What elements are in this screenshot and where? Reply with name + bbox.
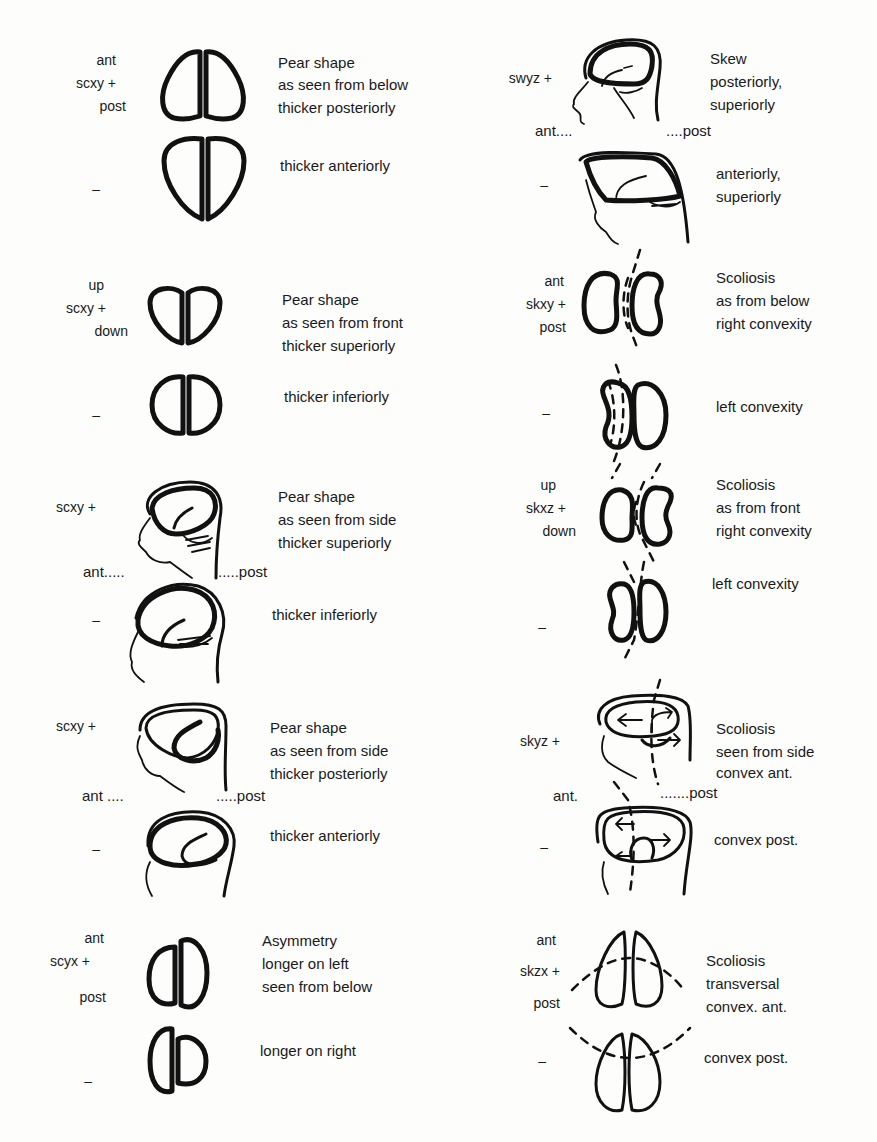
- description-line: thicker inferiorly: [272, 604, 377, 626]
- description-line: seen from below: [262, 976, 372, 998]
- description-line: left convexity: [712, 573, 799, 595]
- description-line: as seen from side: [278, 509, 396, 531]
- label-skxz-plus: skxz +: [486, 497, 566, 519]
- label-up: up: [60, 274, 104, 296]
- description-line: right convexity: [716, 313, 812, 335]
- label-ant: ant: [520, 929, 556, 951]
- description-line: right convexity: [716, 520, 812, 542]
- head-skew-anterior-superior-illustration: [576, 150, 696, 245]
- axis-label-post: ....post: [666, 120, 711, 142]
- description-line: longer on right: [260, 1040, 356, 1062]
- scoliosis-transversal-convex-anterior-illustration: [570, 928, 690, 1013]
- label-swyz-plus: swyz +: [476, 67, 552, 89]
- label-up: up: [520, 474, 556, 496]
- head-side-thick-anterior-illustration: [140, 806, 240, 901]
- label-scxy-plus: scxy +: [20, 715, 96, 737]
- pear-below-thick-anterior-illustration: [160, 135, 250, 225]
- label-minus: –: [526, 616, 546, 638]
- axis-label-ant: ant.....: [83, 561, 125, 583]
- description-line: Pear shape: [278, 52, 355, 74]
- label-minus: –: [526, 1050, 546, 1072]
- scoliosis-front-left-convexity-illustration: [604, 560, 684, 670]
- head-side-thick-posterior-illustration: [134, 700, 234, 795]
- description-line: as from front: [716, 497, 800, 519]
- description-line: posteriorly,: [710, 71, 782, 93]
- description-line: thicker anteriorly: [270, 825, 380, 847]
- head-skew-posterior-superior-illustration: [550, 38, 680, 128]
- description-line: left convexity: [716, 396, 803, 418]
- asymmetry-longer-right-illustration: [146, 1025, 216, 1097]
- label-skyz-plus: skyz +: [490, 730, 560, 752]
- cranial-distortion-diagram: ant scxy + post Pear shape as seen from …: [0, 0, 877, 1142]
- scoliosis-side-convex-posterior-illustration: [594, 782, 704, 902]
- label-down: down: [510, 520, 576, 542]
- scoliosis-front-right-convexity-illustration: [600, 462, 690, 572]
- scoliosis-below-right-convexity-illustration: [580, 250, 690, 365]
- pear-front-thick-superior-illustration: [146, 285, 224, 350]
- label-post: post: [520, 992, 560, 1014]
- axis-label-ant: ant ....: [82, 785, 124, 807]
- description-line: Pear shape: [270, 717, 347, 739]
- description-line: longer on left: [262, 953, 349, 975]
- description-line: Scoliosis: [716, 718, 775, 740]
- description-line: thicker posteriorly: [278, 97, 396, 119]
- pear-front-thick-inferior-illustration: [148, 373, 224, 438]
- description-line: thicker posteriorly: [270, 763, 388, 785]
- scoliosis-below-left-convexity-illustration: [596, 365, 686, 465]
- axis-label-ant: ant.: [553, 785, 578, 807]
- label-minus: –: [80, 609, 100, 631]
- description-line: Scoliosis: [706, 950, 765, 972]
- description-line: convex. ant.: [706, 996, 787, 1018]
- label-skzx-plus: skzx +: [480, 960, 560, 982]
- label-scxy-plus: scxy +: [40, 72, 116, 94]
- label-minus: –: [528, 836, 548, 858]
- axis-label-ant: ant....: [535, 120, 573, 142]
- description-line: Skew: [710, 48, 747, 70]
- label-down: down: [50, 320, 128, 342]
- description-line: convex post.: [714, 829, 798, 851]
- description-line: as seen from front: [282, 312, 403, 334]
- label-ant: ant: [60, 927, 104, 949]
- description-line: seen from side: [716, 741, 814, 763]
- description-line: as seen from below: [278, 74, 408, 96]
- description-line: thicker superiorly: [278, 532, 391, 554]
- description-line: superiorly: [710, 94, 775, 116]
- description-line: Scoliosis: [716, 474, 775, 496]
- description-line: as seen from side: [270, 740, 388, 762]
- label-scxy-plus: scxy +: [30, 297, 106, 319]
- label-minus: –: [80, 838, 100, 860]
- label-ant: ant: [520, 270, 564, 292]
- head-side-thick-inferior-illustration: [122, 578, 232, 686]
- label-post: post: [50, 986, 106, 1008]
- description-line: Pear shape: [282, 289, 359, 311]
- description-line: thicker anteriorly: [280, 155, 390, 177]
- label-post: post: [60, 95, 126, 117]
- axis-label-post: .....post: [216, 785, 265, 807]
- label-scxy-plus: scxy +: [20, 496, 96, 518]
- description-line: convex ant.: [716, 762, 793, 784]
- description-line: anteriorly,: [716, 163, 781, 185]
- label-minus: –: [72, 1070, 92, 1092]
- label-scyx-plus: scyx +: [20, 950, 90, 972]
- label-minus: –: [528, 174, 548, 196]
- label-ant: ant: [60, 49, 116, 71]
- label-minus: –: [80, 178, 100, 200]
- label-minus: –: [530, 402, 550, 424]
- description-line: thicker superiorly: [282, 335, 395, 357]
- description-line: as from below: [716, 290, 809, 312]
- description-line: thicker inferiorly: [284, 386, 389, 408]
- description-line: Pear shape: [278, 486, 355, 508]
- asymmetry-longer-left-illustration: [145, 933, 215, 1013]
- description-line: superiorly: [716, 186, 781, 208]
- pear-below-thick-posterior-illustration: [158, 48, 248, 123]
- label-minus: –: [80, 404, 100, 426]
- scoliosis-transversal-convex-posterior-illustration: [568, 1024, 692, 1114]
- description-line: convex post.: [704, 1047, 788, 1069]
- description-line: Asymmetry: [262, 930, 337, 952]
- head-side-thick-superior-illustration: [120, 478, 230, 583]
- label-skxy-plus: skxy +: [490, 293, 566, 315]
- description-line: transversal: [706, 973, 779, 995]
- label-post: post: [520, 316, 566, 338]
- description-line: Scoliosis: [716, 267, 775, 289]
